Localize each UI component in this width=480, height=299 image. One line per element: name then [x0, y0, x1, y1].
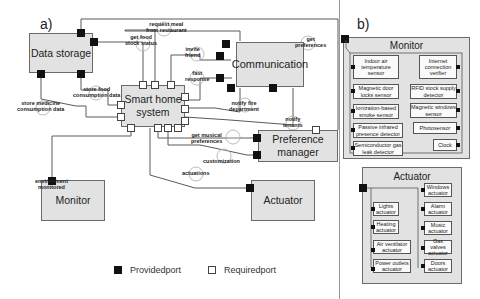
actuator-item: Lights actuator: [373, 202, 399, 216]
provided-port: [421, 264, 425, 268]
actuator-item: Windows actuator: [424, 183, 452, 197]
actuator-item: Music actuator: [424, 221, 452, 235]
provided-port: [371, 207, 375, 211]
provided-port: [421, 246, 425, 250]
diagram-canvas: a) Data storage Smart home system Commun…: [0, 0, 480, 299]
actuator-inner-lines: [0, 0, 480, 299]
provided-port: [371, 267, 375, 271]
actuator-item: Power outlets actuator: [373, 259, 411, 273]
provided-port: [421, 226, 425, 230]
provided-port: [421, 188, 425, 192]
actuator-item: Gas valves actuator: [424, 240, 452, 254]
provided-port: [421, 207, 425, 211]
provided-port: [371, 248, 375, 252]
provided-port: [371, 225, 375, 229]
actuator-item: Heating actuator: [373, 220, 399, 234]
actuator-item: Air ventilator actuator: [373, 240, 411, 254]
actuator-item: Alarm actuator: [424, 202, 452, 216]
actuator-item: Doors actuator: [424, 259, 452, 273]
